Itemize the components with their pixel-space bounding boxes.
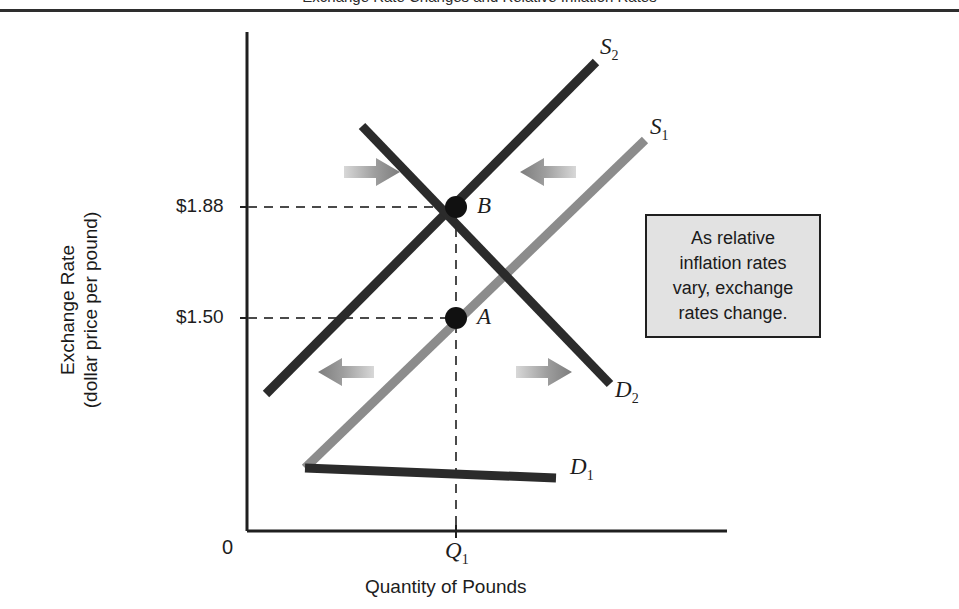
x-axis-title: Quantity of Pounds xyxy=(365,576,527,598)
equilibrium-point-b-label: B xyxy=(477,193,491,219)
annotation-line-1: As relative xyxy=(691,226,775,251)
origin-label: 0 xyxy=(222,536,233,559)
curve-label-d1-base: D xyxy=(570,454,587,479)
annotation-line-2: inflation rates xyxy=(679,251,786,276)
curve-label-s2-sub: 2 xyxy=(612,48,619,63)
curve-label-s1: S1 xyxy=(650,114,669,144)
x-tick-label-q1: Q1 xyxy=(445,538,469,568)
equilibrium-point-a-dot xyxy=(445,307,467,329)
y-tick-label-150: $1.50 xyxy=(176,306,224,328)
curve-label-s2-base: S xyxy=(600,34,612,59)
x-tick-label-q1-sub: 1 xyxy=(462,552,469,567)
x-tick-label-q1-base: Q xyxy=(445,538,462,563)
curve-d1 xyxy=(305,468,556,478)
y-axis-title: Exchange Rate (dollar price per pound) xyxy=(56,0,102,160)
curve-label-d1-sub: 1 xyxy=(587,468,594,483)
curve-label-d2-sub: 2 xyxy=(632,391,639,406)
exchange-rate-figure: Exchange Rate Changes and Relative Infla… xyxy=(0,0,959,609)
shift-arrow-upper-right xyxy=(520,158,576,186)
equilibrium-point-b-dot xyxy=(445,196,467,218)
curve-label-d2-base: D xyxy=(615,377,632,402)
curve-label-s1-sub: 1 xyxy=(662,128,669,143)
y-tick-label-188: $1.88 xyxy=(176,195,224,217)
equilibrium-point-a-label: A xyxy=(477,304,491,330)
annotation-line-4: rates change. xyxy=(678,301,787,326)
y-axis-title-line1: Exchange Rate xyxy=(56,160,79,460)
curve-label-s1-base: S xyxy=(650,114,662,139)
annotation-callout: As relative inflation rates vary, exchan… xyxy=(645,214,821,338)
curve-label-d2: D2 xyxy=(615,377,639,407)
curve-label-d1: D1 xyxy=(570,454,594,484)
shift-arrow-lower-left xyxy=(318,358,374,386)
annotation-line-3: vary, exchange xyxy=(673,276,794,301)
curve-label-s2: S2 xyxy=(600,34,619,64)
shift-arrow-lower-right xyxy=(516,358,572,386)
y-axis-title-line2: (dollar price per pound) xyxy=(79,160,102,460)
